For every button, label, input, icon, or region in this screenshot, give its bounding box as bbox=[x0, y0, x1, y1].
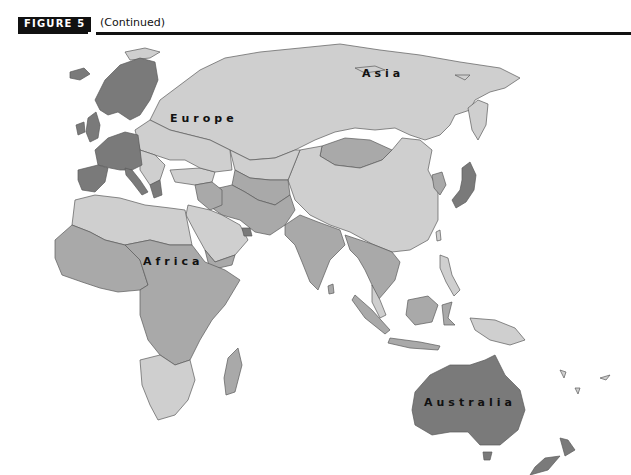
label-africa: Africa bbox=[143, 255, 203, 268]
region-uae bbox=[242, 228, 252, 236]
region-borneo bbox=[406, 296, 438, 325]
label-europe: Europe bbox=[170, 112, 238, 125]
region-scandinavia bbox=[95, 58, 158, 120]
region-ireland bbox=[76, 122, 85, 135]
world-map bbox=[0, 0, 631, 475]
region-new-guinea bbox=[470, 318, 525, 345]
region-japan bbox=[452, 162, 476, 208]
region-taiwan bbox=[436, 230, 441, 241]
region-madagascar bbox=[224, 348, 242, 395]
region-southern-africa bbox=[140, 355, 195, 420]
region-pacific-islands bbox=[560, 370, 610, 394]
region-tasmania bbox=[483, 452, 492, 460]
region-sri-lanka bbox=[328, 284, 334, 294]
region-iceland bbox=[70, 68, 90, 80]
region-iberia bbox=[78, 165, 108, 192]
label-asia: Asia bbox=[362, 67, 404, 80]
region-java bbox=[388, 338, 440, 350]
region-western-europe bbox=[95, 132, 142, 170]
region-levant-iraq bbox=[195, 182, 222, 210]
label-australia: Australia bbox=[424, 396, 516, 409]
region-uk bbox=[86, 112, 100, 142]
region-new-zealand bbox=[530, 438, 575, 475]
region-kamchatka bbox=[468, 100, 488, 140]
region-sulawesi bbox=[442, 302, 455, 325]
region-philippines bbox=[440, 255, 460, 296]
